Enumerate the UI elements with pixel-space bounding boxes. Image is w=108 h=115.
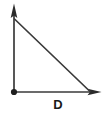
- origin-vertex-dot: [11, 89, 17, 95]
- base-length-label: D: [0, 98, 108, 111]
- geometry-figure: D: [0, 0, 108, 115]
